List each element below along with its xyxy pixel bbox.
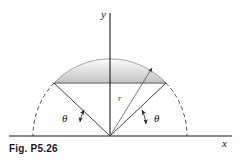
x-axis-label: x — [221, 137, 227, 149]
circular-segment-diagram: y x θ θ r — [0, 0, 243, 164]
angle-arc-left — [80, 110, 84, 122]
figure-container: y x θ θ r Fig. P5.26 — [0, 0, 243, 164]
figure-caption: Fig. P5.26 — [9, 143, 58, 154]
dashed-arc-left — [33, 83, 54, 136]
angle-label-right: θ — [154, 112, 160, 124]
angle-label-left: θ — [62, 112, 68, 124]
radius-line-left — [54, 83, 110, 136]
radius-label: r — [118, 93, 122, 103]
y-axis-label: y — [100, 8, 106, 20]
dashed-arc-right — [166, 83, 187, 136]
angle-arc-right — [142, 110, 146, 124]
